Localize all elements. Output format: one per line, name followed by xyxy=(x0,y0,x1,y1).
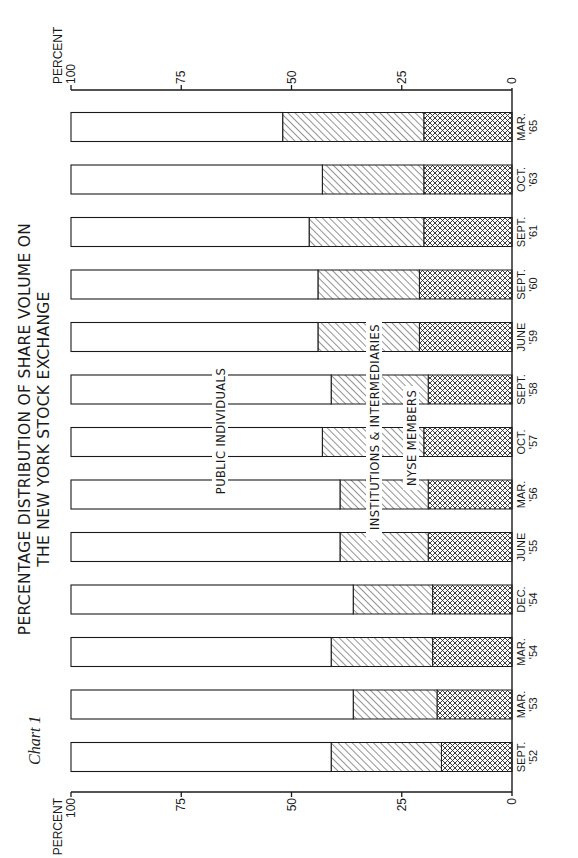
bar-DEC. '54 xyxy=(71,585,512,614)
tick-label-25: 25 xyxy=(395,70,409,84)
segment-institutions xyxy=(283,113,424,142)
chart-title-line-1: PERCENTAGE DISTRIBUTION OF SHARE VOLUME … xyxy=(16,223,34,635)
axis-unit-label: PERCENT xyxy=(51,797,65,855)
segment-public-individuals xyxy=(71,323,318,352)
segment-institutions xyxy=(318,270,419,299)
category-year: '52 xyxy=(527,750,539,764)
chart-title-line-2: THE NEW YORK STOCK EXCHANGE xyxy=(35,291,53,567)
segment-institutions xyxy=(331,638,432,667)
category-label: OCT. xyxy=(515,429,527,454)
chart-caption: Chart 1 xyxy=(26,716,43,765)
tick-label-100: 100 xyxy=(64,64,78,84)
segment-public-individuals xyxy=(71,113,283,142)
tick-label-25: 25 xyxy=(395,798,409,812)
bar-OCT. '57 xyxy=(71,428,512,457)
series-label-public-group: PUBLIC INDIVIDUALS xyxy=(212,356,228,506)
segment-nyse-members xyxy=(419,323,512,352)
bar-SEPT. '52 xyxy=(71,743,512,772)
bar-MAR. '56 xyxy=(71,480,512,509)
tick-label-0: 0 xyxy=(505,77,519,84)
category-year: '54 xyxy=(527,592,539,606)
category-label: SEPT. xyxy=(515,742,527,773)
bar-SEPT. '60 xyxy=(71,270,512,299)
category-year: '55 xyxy=(527,540,539,554)
segment-institutions xyxy=(340,533,428,562)
chart-frame: Chart 1 PERCENTAGE DISTRIBUTION OF SHARE… xyxy=(0,0,578,858)
bar-OCT. '63 xyxy=(71,165,512,194)
series-label-public: PUBLIC INDIVIDUALS xyxy=(214,368,228,494)
value-axis-left: 1007550250PERCENT xyxy=(51,792,519,855)
series-label-nyse: NYSE MEMBERS xyxy=(405,390,419,486)
tick-label-0: 0 xyxy=(505,798,519,805)
segment-nyse-members xyxy=(428,480,512,509)
series-label-institutions-group: INSTITUTIONS & INTERMEDIARIES xyxy=(366,314,382,540)
category-year: '65 xyxy=(527,120,539,134)
segment-nyse-members xyxy=(424,113,512,142)
bars-group xyxy=(71,113,512,772)
category-label: MAR. xyxy=(515,481,527,509)
segment-institutions xyxy=(331,743,441,772)
segment-public-individuals xyxy=(71,480,340,509)
category-label: MAR. xyxy=(515,113,527,141)
category-label: JUNE xyxy=(515,323,527,352)
category-label: MAR. xyxy=(515,638,527,666)
segment-public-individuals xyxy=(71,533,340,562)
category-year: '59 xyxy=(527,330,539,344)
tick-label-50: 50 xyxy=(285,70,299,84)
segment-nyse-members xyxy=(424,428,512,457)
bar-JUNE '55 xyxy=(71,533,512,562)
series-label-nyse-group: NYSE MEMBERS xyxy=(403,386,419,490)
segment-nyse-members xyxy=(419,270,512,299)
category-label: OCT. xyxy=(515,167,527,192)
segment-nyse-members xyxy=(428,533,512,562)
tick-label-75: 75 xyxy=(174,70,188,84)
segment-public-individuals xyxy=(71,270,318,299)
bar-SEPT. '61 xyxy=(71,218,512,247)
category-year: '58 xyxy=(527,382,539,396)
series-label-institutions: INSTITUTIONS & INTERMEDIARIES xyxy=(368,324,382,530)
value-axis-right: 1007550250PERCENT xyxy=(51,26,519,90)
category-year: '53 xyxy=(527,697,539,711)
bar-MAR. '65 xyxy=(71,113,512,142)
segment-public-individuals xyxy=(71,375,331,404)
category-year: '63 xyxy=(527,172,539,186)
segment-nyse-members xyxy=(441,743,512,772)
category-year: '54 xyxy=(527,645,539,659)
segment-public-individuals xyxy=(71,428,322,457)
tick-label-50: 50 xyxy=(285,798,299,812)
bar-JUNE '59 xyxy=(71,323,512,352)
segment-public-individuals xyxy=(71,743,331,772)
segment-institutions xyxy=(322,165,423,194)
category-year: '61 xyxy=(527,225,539,239)
category-label: SEPT. xyxy=(515,374,527,405)
segment-public-individuals xyxy=(71,585,353,614)
segment-nyse-members xyxy=(433,638,512,667)
bar-MAR. '54 xyxy=(71,638,512,667)
segment-public-individuals xyxy=(71,690,353,719)
segment-institutions xyxy=(353,585,432,614)
segment-public-individuals xyxy=(71,638,331,667)
segment-institutions xyxy=(353,690,437,719)
category-label: MAR. xyxy=(515,691,527,719)
tick-label-75: 75 xyxy=(174,798,188,812)
segment-institutions xyxy=(309,218,424,247)
category-year: '60 xyxy=(527,277,539,291)
axis-unit-label: PERCENT xyxy=(51,26,65,84)
category-label: SEPT. xyxy=(515,269,527,300)
segment-nyse-members xyxy=(433,585,512,614)
category-label: DEC. xyxy=(515,586,527,612)
category-year: '57 xyxy=(527,435,539,449)
category-year: '56 xyxy=(527,487,539,501)
segment-public-individuals xyxy=(71,165,322,194)
category-labels: SEPT.'52MAR.'53MAR.'54DEC.'54JUNE'55MAR.… xyxy=(515,113,539,772)
segment-nyse-members xyxy=(437,690,512,719)
bar-MAR. '53 xyxy=(71,690,512,719)
category-label: JUNE xyxy=(515,533,527,562)
segment-nyse-members xyxy=(424,218,512,247)
tick-label-100: 100 xyxy=(64,798,78,818)
bar-SEPT. '58 xyxy=(71,375,512,404)
segment-public-individuals xyxy=(71,218,309,247)
stacked-bar-chart: Chart 1 PERCENTAGE DISTRIBUTION OF SHARE… xyxy=(0,0,578,858)
segment-nyse-members xyxy=(424,165,512,194)
segment-nyse-members xyxy=(428,375,512,404)
